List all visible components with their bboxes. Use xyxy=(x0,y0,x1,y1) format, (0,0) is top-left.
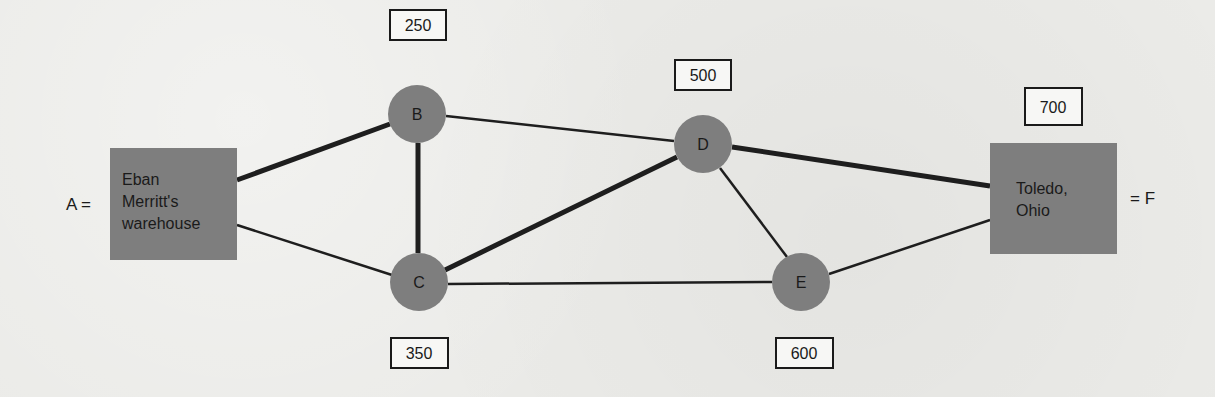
edge-a-b xyxy=(237,124,390,180)
node-a-line1: Eban xyxy=(122,171,159,188)
node-e-label: E xyxy=(796,274,807,291)
node-c: C xyxy=(390,253,448,311)
value-box-e: 600 xyxy=(776,338,833,368)
edge-b-d xyxy=(446,116,674,141)
node-b: B xyxy=(388,85,446,143)
value-c: 350 xyxy=(406,345,433,362)
edge-e-f xyxy=(829,220,990,274)
node-f-box xyxy=(990,143,1117,254)
value-box-b: 250 xyxy=(390,10,446,40)
value-e: 600 xyxy=(791,345,818,362)
value-d: 500 xyxy=(690,67,717,84)
value-b: 250 xyxy=(405,17,432,34)
edges xyxy=(237,116,990,284)
value-box-f: 700 xyxy=(1025,88,1082,125)
node-f-side-label: = F xyxy=(1130,189,1155,208)
node-e: E xyxy=(772,253,830,311)
node-a-line3: warehouse xyxy=(121,215,200,232)
value-box-d: 500 xyxy=(675,60,731,90)
network-diagram: Eban Merritt's warehouse A = Toledo, Ohi… xyxy=(0,0,1215,397)
node-f-line1: Toledo, xyxy=(1016,180,1068,197)
node-d: D xyxy=(674,115,732,173)
node-d-label: D xyxy=(697,136,709,153)
node-f-toledo: Toledo, Ohio xyxy=(990,143,1117,254)
edge-c-e xyxy=(448,282,772,284)
value-f: 700 xyxy=(1040,99,1067,116)
edge-c-d xyxy=(445,157,677,270)
node-b-label: B xyxy=(412,106,423,123)
node-a-warehouse: Eban Merritt's warehouse xyxy=(110,148,237,260)
node-c-label: C xyxy=(413,274,425,291)
node-a-line2: Merritt's xyxy=(122,193,178,210)
node-f-line2: Ohio xyxy=(1016,202,1050,219)
edge-a-c xyxy=(237,225,392,275)
edge-d-f xyxy=(732,147,990,186)
edge-d-e xyxy=(720,168,787,257)
node-a-side-label: A = xyxy=(66,195,91,214)
value-box-c: 350 xyxy=(391,338,448,368)
